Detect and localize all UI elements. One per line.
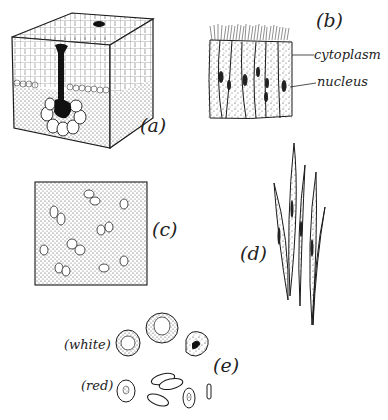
panel-b-epithelium [208,24,316,119]
illustration-canvas: (a) (b) cytopla [0,0,388,420]
panel-d-label: (d) [240,242,267,264]
panel-a-cube [12,13,153,148]
panel-c-cartilage [35,182,147,285]
panel-b-label: (b) [316,9,343,31]
panel-e-label: (e) [213,354,239,376]
annotation-nucleus: nucleus [317,74,368,89]
panel-d-muscle [274,143,325,325]
panel-c-label: (c) [152,218,177,240]
panel-e-blood-cells [116,313,211,408]
annotation-red: (red) [81,378,113,393]
panel-a-label: (a) [140,114,166,136]
annotation-white: (white) [64,337,111,352]
annotation-cytoplasm: cytoplasm [314,47,381,62]
